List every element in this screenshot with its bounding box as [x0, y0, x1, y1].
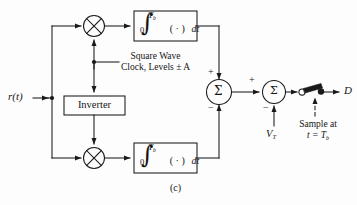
- summer-right-glyph: Σ: [270, 85, 278, 98]
- threshold-voltage-label: VT: [266, 128, 276, 140]
- integral-bottom-upper-limit: Tb: [148, 142, 156, 153]
- integral-top-upper-limit: Tb: [148, 10, 156, 21]
- integrand-top: ( · ): [170, 23, 185, 35]
- clock-annotation: Square Wave Clock, Levels ± A: [121, 51, 190, 73]
- sample-annotation: Sample at t = Tb: [290, 119, 346, 141]
- sample-annotation-line2: t = Tb: [290, 130, 346, 141]
- summer-right-plus-sign: +: [249, 74, 255, 86]
- integrator-bottom-expression: ∫ Tb 0 ( · ) dt: [137, 146, 199, 173]
- summer-left-glyph: Σ: [214, 85, 222, 99]
- inverter-label: Inverter: [71, 99, 118, 111]
- integrator-top-expression: ∫ Tb 0 ( · ) dt: [137, 14, 199, 41]
- clock-annotation-line2: Clock, Levels ± A: [121, 62, 190, 73]
- clock-annotation-line1: Square Wave: [121, 51, 190, 62]
- integrand-bottom: ( · ): [170, 155, 185, 167]
- figure-canvas: r(t) D ∫ Tb 0 ( · ) dt ∫ Tb 0 ( · ) dt I…: [0, 0, 357, 205]
- figure-caption: (c): [170, 182, 181, 194]
- integral-top-lower-limit: 0: [140, 26, 144, 36]
- differential-top: dt: [192, 23, 200, 35]
- sample-annotation-line1: Sample at: [290, 119, 346, 130]
- summer-left-minus-sign: −: [208, 102, 214, 114]
- output-signal-label: D: [344, 84, 352, 97]
- summer-left-plus-sign: +: [208, 66, 214, 78]
- differential-bottom: dt: [192, 155, 200, 167]
- integral-bottom-lower-limit: 0: [140, 158, 144, 168]
- input-signal-label: r(t): [8, 90, 23, 103]
- summer-right-minus-sign: −: [263, 102, 269, 114]
